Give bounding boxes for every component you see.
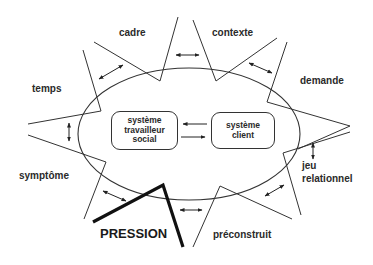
diagram-lines (0, 0, 373, 265)
box-line: social (112, 135, 177, 145)
label-contexte: contexte (212, 27, 253, 38)
label-temps: temps (32, 83, 61, 94)
label-symptome: symptôme (19, 170, 69, 181)
label-pression: PRESSION (100, 228, 167, 239)
label-jeu: jeu (302, 160, 316, 171)
label-demande: demande (300, 75, 344, 86)
label-cadre: cadre (119, 27, 146, 38)
box-systeme-travailleur-social: système travailleur social (111, 111, 178, 150)
label-preconstruit: préconstruit (213, 229, 271, 240)
label-relationnel: relationnel (302, 173, 353, 184)
box-systeme-client: système client (211, 112, 275, 149)
spikes (28, 17, 350, 247)
double-arrows (69, 55, 313, 210)
box-line: client (212, 131, 274, 141)
center-arrows (181, 124, 207, 137)
diagram-canvas: cadre contexte temps demande symptôme je… (0, 0, 373, 265)
